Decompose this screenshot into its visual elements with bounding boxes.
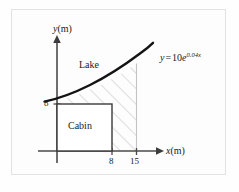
x-axis-label-unit: (m) — [170, 145, 184, 156]
cabin-region-label: Cabin — [68, 121, 92, 131]
x-axis-arrowhead — [156, 147, 164, 155]
y-axis-arrowhead — [53, 35, 61, 43]
y-axis-label: y(m) — [53, 24, 72, 34]
figure-graphic — [0, 0, 239, 192]
curve-equation-label: y=10e0.04x — [160, 52, 201, 63]
x-tick-label-15: 15 — [130, 157, 139, 166]
lake-region-label: Lake — [79, 60, 99, 70]
x-tick-label-8: 8 — [109, 157, 114, 166]
equation-coefficient: 10 — [172, 52, 182, 63]
equation-exponent: 0.04x — [187, 51, 201, 58]
figure-root: y(m) x(m) Lake Cabin 8 8 15 y=10e0.04x — [0, 0, 239, 192]
y-tick-label-8: 8 — [44, 99, 49, 108]
equation-equals: = — [164, 52, 172, 63]
x-axis-label: x(m) — [166, 146, 185, 156]
y-axis-label-unit: (m) — [57, 23, 71, 34]
